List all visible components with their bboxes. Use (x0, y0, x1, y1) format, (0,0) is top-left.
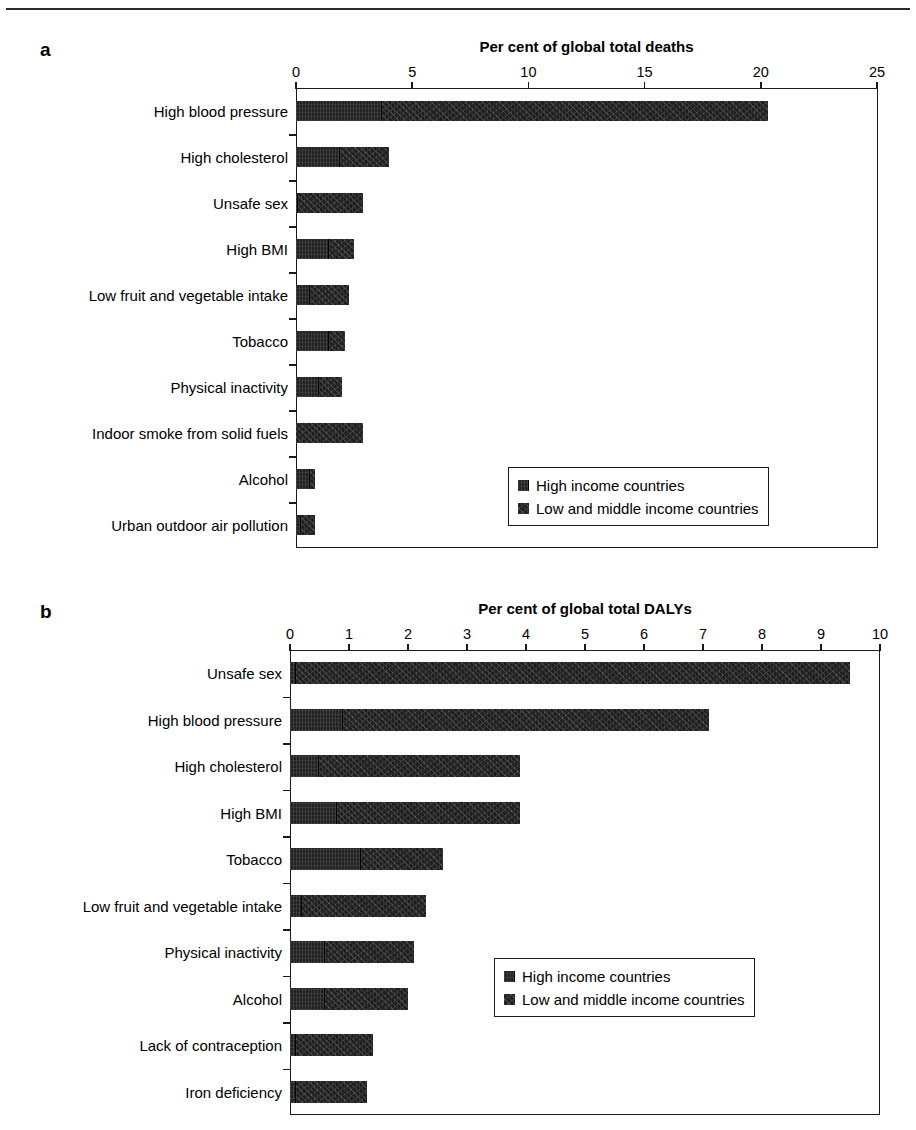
legend-item: Low and middle income countries (504, 991, 745, 1008)
legend-swatch-high-income-icon (518, 480, 529, 491)
bar-segment-low-middle-income (296, 1081, 367, 1103)
x-tick-label: 7 (699, 626, 707, 642)
legend-label: Low and middle income countries (522, 991, 745, 1008)
bar-segment-high-income (290, 988, 325, 1010)
x-tick-label: 9 (817, 626, 825, 642)
bar-segment-low-middle-income (361, 848, 444, 870)
bar-segment-high-income (290, 755, 319, 777)
bar-segment-high-income (290, 941, 325, 963)
panel-a-letter: a (40, 40, 51, 59)
x-tick-label: 10 (872, 626, 888, 642)
bar (290, 709, 709, 731)
panel-b-x-tick-labels: 012345678910 (0, 626, 916, 644)
bar-segment-high-income (290, 709, 343, 731)
x-tick-label: 25 (869, 64, 885, 80)
bar-segment-high-income (290, 895, 302, 917)
x-tick-label: 4 (522, 626, 530, 642)
legend-label: High income countries (522, 968, 670, 985)
bar (290, 1081, 367, 1103)
bar-segment-low-middle-income (382, 101, 768, 121)
bar (290, 895, 426, 917)
bar-segment-low-middle-income (310, 469, 315, 489)
bar-segment-high-income (296, 331, 329, 351)
bar-segment-low-middle-income (296, 662, 851, 684)
bar-segment-low-middle-income (325, 988, 408, 1010)
bar (296, 377, 342, 397)
bar-segment-low-middle-income (296, 1034, 373, 1056)
panel-b-legend: High income countriesLow and middle inco… (494, 958, 755, 1017)
chart-panel-b: b Per cent of global total DALYs 0123456… (0, 570, 916, 1130)
bar (290, 848, 443, 870)
legend-item: High income countries (518, 477, 759, 494)
bar-segment-low-middle-income (325, 941, 413, 963)
bar (296, 423, 363, 443)
legend-item: Low and middle income countries (518, 500, 759, 517)
bar (290, 755, 520, 777)
bar (296, 147, 389, 167)
legend-swatch-high-income-icon (504, 971, 515, 982)
bar-segment-low-middle-income (319, 377, 342, 397)
bar (296, 239, 354, 259)
bar-segment-high-income (296, 147, 340, 167)
legend-swatch-low-middle-income-icon (504, 994, 515, 1005)
x-tick-label: 8 (758, 626, 766, 642)
bar-segment-low-middle-income (296, 423, 363, 443)
bar (290, 1034, 373, 1056)
x-tick-label: 0 (292, 64, 300, 80)
panel-b-letter: b (40, 602, 52, 621)
bar-segment-high-income (296, 239, 329, 259)
bar (296, 285, 349, 305)
bar-segment-high-income (290, 802, 337, 824)
bar (290, 802, 520, 824)
bar-segment-low-middle-income (343, 709, 709, 731)
bar-segment-low-middle-income (301, 515, 315, 535)
bar (296, 101, 768, 121)
x-tick-label: 2 (404, 626, 412, 642)
panel-a-x-tick-labels: 0510152025 (0, 64, 916, 82)
panel-a-axis-title: Per cent of global total deaths (296, 38, 877, 55)
x-tick-label: 6 (640, 626, 648, 642)
bar-segment-high-income (296, 285, 310, 305)
figure-page: a Per cent of global total deaths 051015… (0, 0, 916, 1130)
bar-segment-low-middle-income (319, 755, 520, 777)
bar (296, 331, 345, 351)
bar (296, 515, 315, 535)
bar-segment-low-middle-income (302, 895, 426, 917)
chart-panel-a: a Per cent of global total deaths 051015… (0, 0, 916, 560)
bar (290, 941, 414, 963)
x-tick-label: 20 (753, 64, 769, 80)
bar-segment-low-middle-income (298, 193, 363, 213)
bar-segment-low-middle-income (340, 147, 389, 167)
bar (296, 469, 315, 489)
bar (296, 193, 363, 213)
bar-segment-low-middle-income (310, 285, 349, 305)
bar-segment-low-middle-income (329, 331, 345, 351)
bar (290, 662, 851, 684)
legend-label: Low and middle income countries (536, 500, 759, 517)
bar-segment-low-middle-income (337, 802, 520, 824)
panel-b-bars (0, 650, 916, 1115)
x-tick-label: 10 (520, 64, 536, 80)
x-tick-label: 15 (637, 64, 653, 80)
bar-segment-low-middle-income (329, 239, 355, 259)
bar (290, 988, 408, 1010)
legend-label: High income countries (536, 477, 684, 494)
bar-segment-high-income (290, 848, 361, 870)
panel-a-bars (0, 88, 916, 548)
bar-segment-high-income (296, 469, 310, 489)
panel-a-legend: High income countriesLow and middle inco… (508, 467, 769, 526)
x-tick-label: 3 (463, 626, 471, 642)
x-tick-label: 5 (408, 64, 416, 80)
panel-b-axis-title: Per cent of global total DALYs (290, 600, 880, 617)
x-tick-label: 5 (581, 626, 589, 642)
legend-item: High income countries (504, 968, 745, 985)
legend-swatch-low-middle-income-icon (518, 503, 529, 514)
bar-segment-high-income (296, 377, 319, 397)
x-tick-label: 1 (345, 626, 353, 642)
x-tick-label: 0 (286, 626, 294, 642)
bar-segment-high-income (296, 101, 382, 121)
